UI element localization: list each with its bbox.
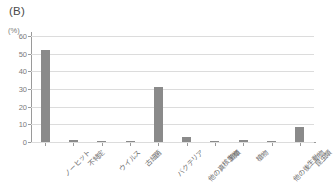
y-axis-tick-label: 0 xyxy=(23,138,27,147)
y-axis-tick-label: 20 xyxy=(19,102,27,111)
bar xyxy=(69,140,78,142)
bar xyxy=(267,141,276,142)
gridline xyxy=(31,71,314,72)
x-axis-tick-mark xyxy=(73,143,74,146)
bar xyxy=(295,127,304,142)
bar xyxy=(182,137,191,142)
gridline xyxy=(31,124,314,125)
y-axis-tick-label: 40 xyxy=(19,67,27,76)
x-axis-tick-mark xyxy=(243,143,244,146)
gridline xyxy=(31,107,314,108)
y-axis-tick-mark xyxy=(28,142,31,143)
x-axis-tick-mark xyxy=(158,143,159,146)
x-axis-tick-label: 古細菌 xyxy=(142,147,164,169)
x-axis-tick-label: 植物 xyxy=(253,147,270,164)
x-axis-tick-mark xyxy=(102,143,103,146)
plot-area xyxy=(31,36,314,142)
y-axis-tick-mark xyxy=(28,89,31,90)
gridline xyxy=(31,54,314,55)
x-axis-tick-mark xyxy=(45,143,46,146)
bar xyxy=(97,141,106,142)
panel-label: (B) xyxy=(9,5,25,17)
y-axis-tick-labels: 0102030405060 xyxy=(0,36,27,142)
x-axis-tick-label: バクテリア xyxy=(174,147,205,178)
x-axis-tick-mark xyxy=(187,143,188,146)
x-axis-tick-mark xyxy=(215,143,216,146)
x-axis-tick-label: ウイルス xyxy=(116,147,143,174)
y-axis-tick-mark xyxy=(28,107,31,108)
y-axis-tick-mark xyxy=(28,54,31,55)
y-axis-tick-label: 30 xyxy=(19,85,27,94)
gridline xyxy=(31,89,314,90)
bar xyxy=(41,50,50,142)
bar xyxy=(154,87,163,142)
x-axis-tick-mark xyxy=(300,143,301,146)
bar xyxy=(210,141,219,142)
y-axis-tick-mark xyxy=(28,71,31,72)
gridline xyxy=(31,36,314,37)
bar xyxy=(126,141,135,142)
x-axis-tick-mark xyxy=(272,143,273,146)
y-axis-tick-label: 60 xyxy=(19,32,27,41)
y-axis-tick-label: 50 xyxy=(19,49,27,58)
y-axis-tick-mark xyxy=(28,36,31,37)
y-axis-tick-label: 10 xyxy=(19,120,27,129)
x-axis-tick-mark xyxy=(130,143,131,146)
bar xyxy=(239,140,248,142)
y-axis-tick-mark xyxy=(28,124,31,125)
